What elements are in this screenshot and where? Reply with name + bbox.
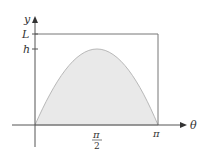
tick-label-pi-over-2-num: π [92,129,100,140]
sine-area-diagram: y L h θ π 2 π [0,0,209,165]
tick-label-pi-over-2-den: 2 [94,141,100,151]
y-axis-label: y [23,13,31,26]
y-axis-arrow-icon [32,16,38,23]
tick-label-pi: π [152,128,160,139]
curve-shaded-region [35,49,158,125]
x-axis-arrow-icon [180,122,187,128]
tick-label-L: L [21,28,29,41]
tick-label-h: h [23,43,30,56]
x-axis-label: θ [190,119,197,132]
